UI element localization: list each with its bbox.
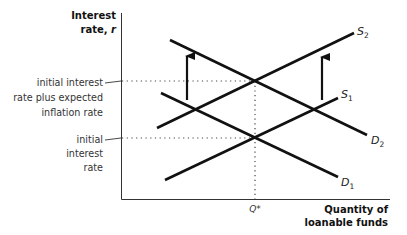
lower-rate-label-3: rate <box>84 162 104 173</box>
lower-rate-label-1: initial <box>77 134 103 145</box>
demand-curve-d1 <box>161 93 338 177</box>
y-axis-title: Interest <box>71 10 116 21</box>
q-star-label: Q* <box>249 204 261 214</box>
lower-leader <box>105 138 121 140</box>
upper-rate-label-3: inflation rate <box>41 107 103 118</box>
upper-rate-label-1: initial interest <box>37 77 103 88</box>
s1-label: S1 <box>341 88 353 103</box>
loanable-funds-chart: Interest rate, r Quantity of loanable fu… <box>0 0 407 235</box>
x-axis-title: Quantity of <box>324 204 388 215</box>
lower-rate-label-2: interest <box>66 148 103 159</box>
d1-label: D1 <box>341 176 354 191</box>
s2-label: S2 <box>357 25 369 40</box>
y-axis-title-line2: rate, r <box>81 24 118 35</box>
x-axis-title-line2: loanable funds <box>305 217 389 228</box>
upper-rate-label-2: rate plus expected <box>13 92 103 103</box>
demand-curve-d2 <box>170 40 367 135</box>
d2-label: D2 <box>371 134 384 149</box>
upper-leader <box>105 81 121 83</box>
